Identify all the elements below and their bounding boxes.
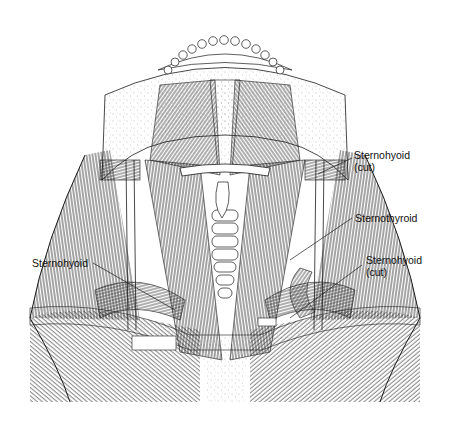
- label-sternohyoid-cut-upper: Sternohyoid (cut): [354, 149, 410, 173]
- label-text: (cut): [354, 161, 410, 173]
- label-sternohyoid-left: Sternohyoid: [32, 257, 88, 269]
- label-text: Sternohyoid: [32, 257, 88, 269]
- label-text: Sternohyoid: [354, 149, 410, 161]
- pectoral-region: [30, 307, 420, 402]
- label-sternohyoid-cut-lower: Sternohyoid (cut): [366, 254, 422, 278]
- trachea: [212, 210, 238, 298]
- label-text: Sternothyroid: [355, 212, 417, 224]
- mandible: [100, 36, 348, 218]
- label-sternothyroid: Sternothyroid: [355, 212, 417, 224]
- label-text: (cut): [366, 266, 422, 278]
- label-text: Sternohyoid: [366, 254, 422, 266]
